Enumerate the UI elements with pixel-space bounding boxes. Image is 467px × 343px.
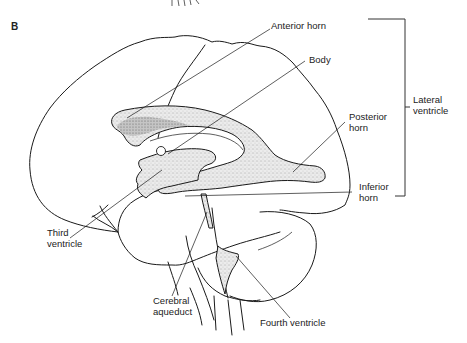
label-lateral-ventricle-line2: ventricle [413, 106, 448, 117]
label-inferior-horn-line2: horn [359, 193, 389, 204]
lateral-ventricle-bracket [368, 19, 410, 196]
label-anterior-horn: Anterior horn [271, 21, 326, 32]
label-cerebral-aqueduct-line1: Cerebral [153, 296, 192, 307]
spinal-roots [214, 296, 244, 335]
label-third-ventricle-line2: ventricle [47, 239, 82, 250]
temporal-lobe-outline [92, 205, 280, 265]
cerebellum-fissure [258, 232, 292, 250]
fourth-ventricle-shape [216, 246, 239, 294]
leader-third-ventricle [70, 170, 162, 238]
label-inferior-horn-line1: Inferior [359, 182, 389, 193]
label-lateral-ventricle: Lateral ventricle [413, 95, 448, 116]
interventricular-foramen [157, 147, 166, 156]
panel-label: B [11, 21, 18, 32]
label-posterior-horn: Posterior horn [349, 112, 387, 133]
label-fourth-ventricle: Fourth ventricle [260, 318, 325, 329]
leader-fourth-ventricle [236, 256, 290, 318]
leader-anterior-horn [127, 29, 270, 118]
leader-inferior-horn [185, 192, 352, 196]
label-lateral-ventricle-line1: Lateral [413, 95, 448, 106]
label-cerebral-aqueduct: Cerebral aqueduct [153, 296, 192, 317]
label-posterior-horn-line1: Posterior [349, 112, 387, 123]
label-third-ventricle: Third ventricle [47, 228, 82, 249]
cerebrum-outline [30, 36, 350, 232]
brain-ventricles-diagram [0, 0, 467, 343]
label-third-ventricle-line1: Third [47, 228, 82, 239]
label-cerebral-aqueduct-line2: aqueduct [153, 307, 192, 318]
label-body: Body [309, 55, 331, 66]
label-posterior-horn-line2: horn [349, 123, 387, 134]
cerebellum-outline [230, 212, 316, 302]
top-fragment [172, 0, 199, 6]
label-inferior-horn: Inferior horn [359, 182, 389, 203]
leader-posterior-horn [293, 122, 345, 172]
